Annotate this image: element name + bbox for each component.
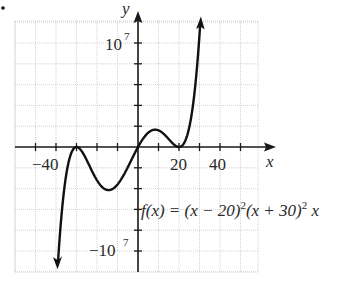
x-tick-label-20: 20 [170, 155, 187, 174]
function-label: f(x) = (x − 20)2(x + 30)2 x [141, 199, 320, 220]
x-tick-label-40: 40 [209, 155, 226, 174]
y-tick-exponent: 7 [124, 30, 130, 42]
x-tick-label-neg40: −40 [32, 155, 59, 174]
bullet-marker [1, 6, 5, 10]
axes [15, 11, 276, 272]
x-axis-label: x [265, 152, 274, 171]
y-tick-label-neg: −10 7 [89, 236, 129, 260]
label-lhs: f(x) = (x − 20) [141, 201, 241, 220]
y-axis-label: y [120, 0, 130, 18]
function-plot: y x −40 20 40 10 7 −10 7 f(x) = (x − 20)… [0, 0, 348, 282]
svg-text:f(x) = (x − 20)2(x + 30)2 x: f(x) = (x − 20)2(x + 30)2 x [141, 199, 320, 220]
curve-arrowheads [53, 16, 205, 269]
label-mid: (x + 30) [246, 201, 302, 220]
y-tick-base: 10 [105, 35, 122, 54]
label-tail: x [307, 201, 319, 220]
y-tick-base: −10 [89, 241, 116, 260]
y-tick-exponent: 7 [123, 236, 129, 248]
graph-figure: y x −40 20 40 10 7 −10 7 f(x) = (x − 20)… [0, 0, 348, 282]
